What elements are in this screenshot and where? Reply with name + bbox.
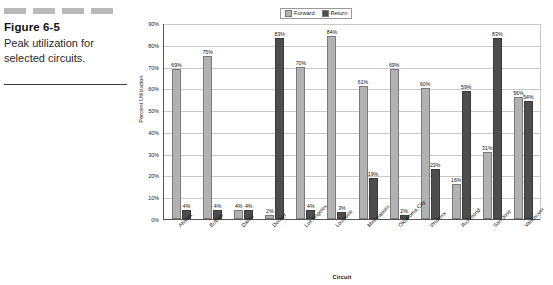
bar-group: 61%19% bbox=[352, 24, 383, 219]
bar-groups: 69%4%75%4%4%4%2%83%70%4%84%3%61%19%69%2%… bbox=[164, 24, 541, 219]
figure-number: Figure 6-5 bbox=[4, 21, 130, 34]
deco-bar-2-icon bbox=[33, 8, 55, 14]
bar-forward: 61% bbox=[359, 86, 368, 219]
bar-group: 60%23% bbox=[415, 24, 446, 219]
bar-value-label: 61% bbox=[358, 79, 368, 85]
bar-group: 56%54% bbox=[508, 24, 539, 219]
y-axis-ticks: 90%80%70%60%50%40%30%20%10%0% bbox=[135, 24, 162, 220]
bar-value-label: 4% bbox=[235, 203, 243, 209]
y-tick-label: 60% bbox=[148, 86, 159, 92]
bar-value-label: 60% bbox=[420, 81, 430, 87]
bar-value-label: 31% bbox=[482, 145, 492, 151]
bar-value-label: 69% bbox=[389, 62, 399, 68]
plot-right-border bbox=[540, 24, 541, 220]
bar-value-label: 83% bbox=[492, 31, 502, 37]
bar-value-label: 54% bbox=[523, 94, 533, 100]
x-axis-title: Circuit bbox=[135, 274, 549, 280]
caption-divider bbox=[4, 84, 127, 85]
bar-value-label: 4% bbox=[214, 203, 222, 209]
y-tick-label: 20% bbox=[148, 173, 159, 179]
bar-value-label: 4% bbox=[183, 203, 191, 209]
chart-legend: ForwardReturn bbox=[280, 8, 352, 19]
bar-value-label: 83% bbox=[275, 31, 285, 37]
legend-item-forward: Forward bbox=[285, 10, 315, 17]
bar-value-label: 56% bbox=[513, 90, 523, 96]
plot-canvas: 69%4%75%4%4%4%2%83%70%4%84%3%61%19%69%2%… bbox=[163, 24, 541, 220]
bar-forward: 2% bbox=[265, 215, 274, 219]
bar-forward: 69% bbox=[172, 69, 181, 219]
bar-return: 83% bbox=[275, 38, 284, 219]
bar-group: 4%4% bbox=[228, 24, 259, 219]
bar-forward: 4% bbox=[234, 210, 243, 219]
bar-forward: 56% bbox=[514, 97, 523, 219]
bar-forward: 16% bbox=[452, 184, 461, 219]
legend-swatch-icon bbox=[285, 10, 292, 17]
deco-bar-1-icon bbox=[4, 8, 26, 14]
bar-forward: 75% bbox=[203, 56, 212, 219]
bar-value-label: 69% bbox=[171, 62, 181, 68]
bar-return: 59% bbox=[462, 91, 471, 219]
bar-value-label: 70% bbox=[296, 60, 306, 66]
plot-area: Percent Utilization 90%80%70%60%50%40%30… bbox=[135, 24, 549, 229]
y-tick-label: 10% bbox=[148, 195, 159, 201]
bar-group: 70%4% bbox=[290, 24, 321, 219]
legend-label: Forward bbox=[294, 10, 315, 17]
legend-label: Return bbox=[331, 10, 348, 17]
bar-value-label: 84% bbox=[327, 29, 337, 35]
bar-group: 31%83% bbox=[477, 24, 508, 219]
bar-group: 69%2% bbox=[384, 24, 415, 219]
y-tick-label: 0% bbox=[151, 217, 159, 223]
chart-panel: ForwardReturn Percent Utilization 90%80%… bbox=[135, 2, 549, 283]
bar-value-label: 4% bbox=[307, 203, 315, 209]
deco-bar-4-icon bbox=[91, 8, 113, 14]
bar-value-label: 23% bbox=[430, 162, 440, 168]
legend-item-return: Return bbox=[322, 10, 348, 17]
y-tick-label: 30% bbox=[148, 152, 159, 158]
bar-forward: 84% bbox=[327, 36, 336, 219]
bar-return: 54% bbox=[524, 101, 533, 219]
bar-forward: 69% bbox=[390, 69, 399, 219]
deco-bar-3-icon bbox=[62, 8, 84, 14]
bar-value-label: 59% bbox=[461, 84, 471, 90]
bar-return: 83% bbox=[493, 38, 502, 219]
bar-group: 84%3% bbox=[321, 24, 352, 219]
bar-value-label: 19% bbox=[368, 171, 378, 177]
legend-swatch-icon bbox=[322, 10, 329, 17]
bar-forward: 70% bbox=[296, 67, 305, 219]
y-tick-label: 70% bbox=[148, 65, 159, 71]
bar-value-label: 4% bbox=[245, 203, 253, 209]
bar-value-label: 2% bbox=[266, 208, 274, 214]
bar-forward: 31% bbox=[483, 152, 492, 220]
bar-return: 23% bbox=[431, 169, 440, 219]
y-tick-label: 80% bbox=[148, 43, 159, 49]
y-tick-label: 90% bbox=[148, 21, 159, 27]
bar-group: 16%59% bbox=[446, 24, 477, 219]
y-tick-label: 50% bbox=[148, 108, 159, 114]
decoration-bars bbox=[4, 8, 130, 14]
x-axis-labels: AtlantaBuffaloDallasDenverLos AngelesLou… bbox=[163, 222, 541, 270]
figure-description: Peak utilization for selected circuits. bbox=[4, 36, 130, 65]
screenshot-root: Figure 6-5 Peak utilization for selected… bbox=[0, 0, 553, 285]
bar-value-label: 3% bbox=[338, 205, 346, 211]
bar-group: 2%83% bbox=[259, 24, 290, 219]
figure-caption-block: Figure 6-5 Peak utilization for selected… bbox=[4, 8, 130, 65]
y-tick-label: 40% bbox=[148, 130, 159, 136]
bar-group: 75%4% bbox=[197, 24, 228, 219]
bar-value-label: 75% bbox=[202, 49, 212, 55]
bar-value-label: 16% bbox=[451, 177, 461, 183]
bar-group: 69%4% bbox=[166, 24, 197, 219]
